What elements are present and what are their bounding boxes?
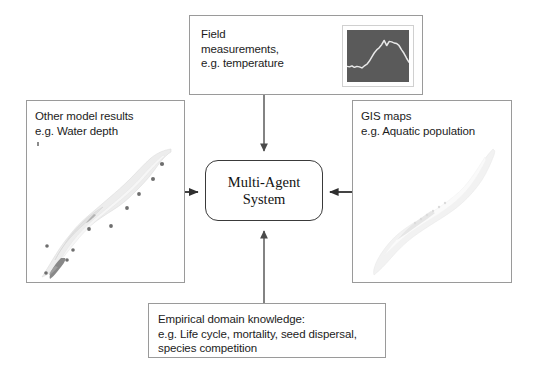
temperature-chart-line	[347, 40, 409, 68]
box-gis-maps-label: GIS maps e.g. Aquatic population	[361, 109, 475, 138]
temperature-chart-svg	[347, 30, 409, 82]
multi-agent-system-label: Multi-Agent System	[206, 161, 322, 220]
aquatic-population-map-svg	[365, 141, 507, 281]
box-multi-agent-system: Multi-Agent System	[205, 160, 323, 221]
box-gis-maps: GIS maps e.g. Aquatic population	[352, 100, 512, 283]
box-field-measurements: Field measurements, e.g. temperature	[189, 15, 423, 95]
temperature-chart-plot-area	[347, 30, 409, 82]
diagram-canvas: Field measurements, e.g. temperature Oth…	[0, 0, 536, 375]
aquatic-population-river-shape	[374, 149, 495, 275]
water-depth-river-shape	[42, 149, 171, 279]
box-field-measurements-label: Field measurements, e.g. temperature	[201, 27, 284, 71]
water-depth-map-svg	[31, 146, 181, 281]
aquatic-population-map-thumbnail	[365, 141, 507, 281]
water-depth-map-thumbnail	[31, 146, 181, 281]
box-other-model-results-label: Other model results e.g. Water depth	[35, 109, 133, 138]
box-empirical-domain-knowledge: Empirical domain knowledge: e.g. Life cy…	[148, 303, 386, 358]
temperature-line-chart-thumbnail	[342, 25, 414, 87]
box-empirical-domain-knowledge-label: Empirical domain knowledge: e.g. Life cy…	[158, 312, 357, 356]
box-other-model-results: Other model results e.g. Water depth	[26, 100, 185, 283]
